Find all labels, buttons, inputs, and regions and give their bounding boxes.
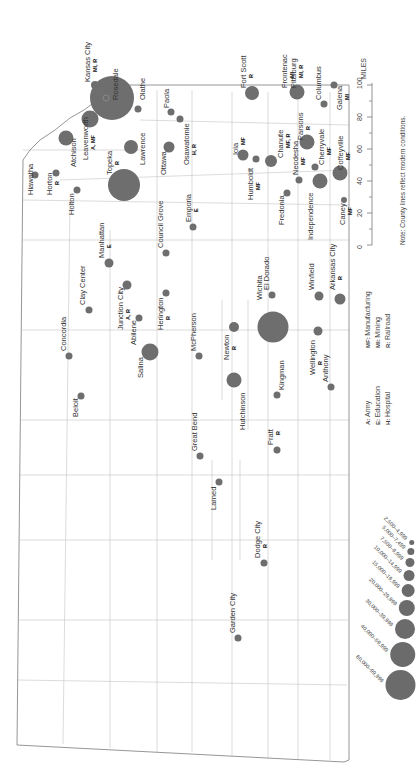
size-legend-circle [390, 642, 415, 667]
town-label: Fredonia [277, 195, 286, 225]
town-hiawatha: Hiawatha [26, 163, 39, 195]
size-legend-circle [402, 584, 415, 597]
town-dot [66, 353, 73, 360]
legend-code-item: MI: Mining [374, 317, 382, 348]
activity-codes: MI, R [298, 65, 304, 78]
activity-codes: H, R [191, 144, 197, 155]
town-label: Holton [67, 193, 76, 215]
town-dot [229, 322, 239, 332]
town-dot [105, 259, 114, 268]
activity-codes: R [54, 181, 60, 185]
town-label: Atchison [69, 138, 78, 167]
size-legend-circle [407, 548, 414, 555]
town-label: Garden City [228, 593, 237, 633]
activity-codes: R [114, 161, 120, 165]
activity-codes: MF [326, 146, 332, 155]
town-dot [269, 292, 276, 299]
kansas-town-map: Kansas CityMI, RRosedaleOlatheLeavenwort… [0, 0, 416, 772]
town-markers: Kansas CityMI, RRosedaleOlatheLeavenwort… [26, 42, 353, 642]
town-label: Topeka [105, 150, 114, 175]
town-label: Columbus [314, 66, 323, 100]
scale-unit: MILES [360, 58, 367, 79]
town-dot [313, 174, 328, 189]
town-label: Neodesha [291, 140, 300, 175]
town-label: Concordia [59, 316, 68, 351]
legend-code-item: H: Hospital [384, 391, 392, 425]
town-dot [341, 197, 347, 203]
town-dot [135, 106, 142, 113]
town-kingman: Kingman [274, 360, 287, 398]
town-dodge-city: Dodge CityR [253, 521, 268, 567]
town-dot [168, 109, 175, 116]
town-label: Wellington [308, 340, 317, 375]
town-independence: Independence [306, 174, 328, 241]
town-manhattan: ManhattanE [97, 223, 114, 268]
town-dot [124, 140, 138, 154]
town-lawrence: Lawrence [124, 132, 147, 165]
scale-tick-label: 0 [356, 245, 363, 249]
town-label: Lawrence [138, 132, 147, 165]
activity-codes: R [275, 431, 281, 435]
scale-tick-label: 60 [356, 145, 363, 153]
town-label: Osawatomie [182, 123, 191, 165]
town-label: Great Bend [190, 413, 199, 451]
town-label: Pratt [266, 428, 275, 445]
town-paola: Paola [162, 88, 175, 116]
town-dot [196, 353, 203, 360]
size-legend-circle [399, 600, 415, 616]
town-fort-scott: Fort ScottR [239, 55, 259, 100]
town-label: Anthony [321, 354, 330, 382]
town-label: Leavenworth [81, 117, 90, 160]
town-dot [164, 142, 175, 153]
town-atchison: Atchison [59, 131, 79, 168]
town-label: Cherryvale [317, 129, 326, 165]
activity-codes: A, R [125, 309, 131, 320]
town-label: Dodge City [253, 521, 262, 558]
town-rosedale: Rosedale [90, 68, 134, 120]
size-legend-circle [405, 558, 414, 567]
town-label: Council Grove [156, 200, 165, 248]
town-label: Independence [306, 192, 315, 240]
code-legend: A: ArmyE: EducationH: HospitalMF: Manufa… [364, 291, 392, 425]
map-note: Note: County lines reflect modern condit… [399, 115, 407, 245]
scale-bar: 020406080100 MILES [356, 58, 372, 249]
town-label: Kansas City [83, 42, 92, 82]
town-label: Hutchinson [238, 392, 247, 430]
town-arkansas-city: Arkansas CityR [328, 243, 346, 304]
activity-codes: A, MF [90, 134, 96, 150]
town-label: Coffeyville [336, 136, 345, 170]
legend-code-item: R: Railroad [384, 314, 391, 348]
activity-codes: MI, R [92, 59, 98, 72]
size-legend-label: 40,000–59,999 [360, 623, 390, 653]
town-galena: GalenaMI [331, 82, 351, 111]
town-coffeyville: CoffeyvilleMF [333, 136, 352, 181]
town-dot [274, 447, 281, 454]
town-pittsburg: PittsburgMI, R [289, 58, 305, 99]
town-label: Newton [222, 335, 231, 360]
town-label: El Dorado [262, 257, 271, 290]
town-label: Iola [231, 142, 240, 155]
town-label: Abilene [129, 320, 138, 345]
town-salina: Salina [136, 344, 159, 379]
town-caney: CaneyMF [338, 197, 353, 225]
town-label: McPherson [189, 313, 198, 351]
town-label: Parsons [296, 112, 305, 140]
town-dot [86, 307, 93, 314]
town-herington: HeringtonR [156, 290, 171, 331]
town-chanute: ChanuteMF, R [265, 130, 291, 167]
town-label: Pittsburg [289, 58, 298, 88]
town-osawatomie: OsawatomieH, R [177, 116, 198, 166]
town-dot [261, 560, 268, 567]
town-dot [227, 373, 242, 388]
town-dot [296, 177, 303, 184]
size-legend: 2,500–4,9995,000–7,4997,500–9,99910,000–… [355, 515, 416, 700]
town-dot [190, 224, 197, 231]
size-legend-circle [386, 670, 416, 700]
town-iola: IolaMF [231, 136, 249, 160]
town-dot [197, 453, 204, 460]
town-label: Arkansas City [328, 243, 337, 290]
town-label: Herington [156, 297, 165, 330]
town-ottawa: Ottawa [159, 142, 175, 176]
scale-tick-label: 20 [356, 209, 363, 217]
town-label: Frontenac [280, 54, 289, 88]
